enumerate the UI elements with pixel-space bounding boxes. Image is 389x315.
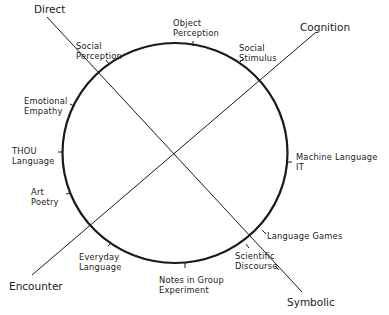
label-thou-language: THOU Language bbox=[12, 146, 55, 166]
pole-encounter: Encounter bbox=[9, 280, 63, 292]
tick-scientific-discourse bbox=[246, 244, 249, 248]
pole-direct: Direct bbox=[34, 3, 65, 15]
label-social-stimulus: Social Stimulus bbox=[239, 43, 277, 63]
label-social-perception: Social Perception bbox=[76, 41, 122, 61]
tick-language-games bbox=[262, 230, 266, 234]
label-art-poetry: Art Poetry bbox=[31, 187, 59, 207]
circumplex-diagram: Direct Cognition Encounter Symbolic Obje… bbox=[0, 0, 389, 315]
label-machine-language: Machine Language IT bbox=[296, 152, 378, 172]
pole-cognition: Cognition bbox=[300, 21, 350, 33]
label-scientific-discourse: Scientific Discourse bbox=[235, 251, 278, 271]
pole-symbolic: Symbolic bbox=[287, 296, 335, 308]
label-object-perception: Object Perception bbox=[173, 18, 219, 38]
label-notes-in-group: Notes in Group Experiment bbox=[159, 275, 224, 295]
label-language-games: Language Games bbox=[267, 231, 342, 241]
label-emotional-empathy: Emotional Empathy bbox=[24, 96, 67, 116]
label-everyday-language: Everyday Language bbox=[79, 252, 122, 272]
